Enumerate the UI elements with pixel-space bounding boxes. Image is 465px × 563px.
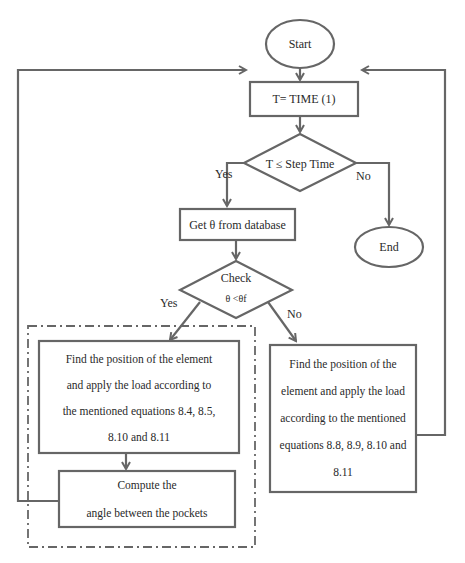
left-line-2: and apply the load according to: [67, 372, 212, 398]
right-line-2: element and apply the load: [281, 378, 405, 405]
yes-label-2: Yes: [160, 296, 177, 311]
check-condition: θ <θf: [206, 294, 266, 304]
check-decision: [180, 261, 292, 318]
left-line-3: the mentioned equations 8.4, 8.5,: [63, 398, 216, 424]
no-label-2: No: [287, 307, 302, 322]
compute-line-2: angle between the pockets: [86, 499, 207, 527]
right-line-1: Find the position of the: [289, 351, 396, 378]
decision-time-label: T ≤ Step Time: [248, 158, 352, 170]
get-theta-label: Get θ from database: [180, 219, 295, 231]
right-line-3: according to the mentioned: [280, 405, 406, 432]
left-line-1: Find the position of the element: [66, 346, 213, 372]
check-title: Check: [206, 272, 266, 284]
right-line-4: equations 8.8, 8.9, 8.10 and: [280, 432, 407, 459]
compute-text: Compute the angle between the pockets: [59, 473, 235, 525]
right-line-5: 8.11: [333, 459, 353, 486]
no-label-1: No: [356, 169, 371, 184]
start-label: Start: [266, 38, 334, 50]
yes-label-1: Yes: [215, 167, 232, 182]
left-line-4: 8.10 and 8.11: [108, 424, 170, 450]
compute-line-1: Compute the: [117, 471, 176, 499]
right-process-text: Find the position of the element and app…: [270, 348, 416, 489]
left-process-text: Find the position of the element and app…: [39, 345, 239, 451]
time-step-label: T= TIME (1): [250, 93, 358, 105]
end-label: End: [355, 241, 423, 253]
